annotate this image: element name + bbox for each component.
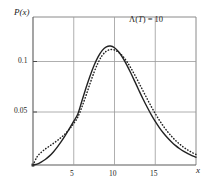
annotation-value: ) = 10	[143, 14, 163, 24]
x-tick-label-5: 5	[70, 170, 74, 178]
y-axis-label: P(x)	[14, 8, 30, 17]
lambda-symbol: Λ(	[129, 14, 138, 24]
x-tick-label-15: 15	[150, 170, 158, 178]
plot-canvas	[0, 0, 212, 187]
lambda-T-annotation: Λ(T) = 10	[129, 15, 163, 24]
y-tick-label-0.05: 0.05	[14, 107, 27, 115]
tick-marks	[33, 62, 37, 113]
probability-density-figure: P(x) x 0.1 0.05 5 10 15 Λ(T) = 10	[0, 0, 212, 187]
x-axis-label: x	[196, 166, 200, 175]
y-tick-label-0.1: 0.1	[18, 57, 27, 65]
x-tick-label-10: 10	[109, 170, 117, 178]
